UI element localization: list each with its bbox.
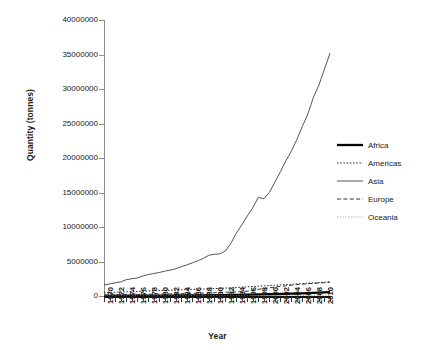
- x-axis-tick-labels: 1970197219741976197819801982198419861988…: [104, 302, 344, 334]
- x-tick-label: 2010: [327, 287, 335, 304]
- legend-label: Asia: [368, 177, 384, 186]
- x-tick-label: 2006: [305, 287, 313, 304]
- y-tick-label: 15000000: [18, 189, 98, 197]
- y-tick-label: 10000000: [18, 223, 98, 231]
- legend-item-africa[interactable]: Africa: [337, 136, 429, 154]
- y-tick-label: 35000000: [18, 51, 98, 59]
- legend-item-europe[interactable]: Europe: [337, 190, 429, 208]
- x-tick-label: 1970: [107, 287, 115, 304]
- x-tick-label: 1982: [173, 287, 181, 304]
- x-tick-label: 2000: [272, 287, 280, 304]
- legend-label: Africa: [368, 141, 388, 150]
- x-tick-label: 2002: [283, 287, 291, 304]
- legend-item-americas[interactable]: Americas: [337, 154, 429, 172]
- legend-label: Oceania: [368, 213, 398, 222]
- x-tick-label: 1988: [206, 287, 214, 304]
- x-tick-label: 1998: [261, 287, 269, 304]
- plot-area: [104, 20, 330, 296]
- legend-item-asia[interactable]: Asia: [337, 172, 429, 190]
- legend-item-oceania[interactable]: Oceania: [337, 208, 429, 226]
- x-tick-label: 1974: [129, 287, 137, 304]
- y-tick-label: 40000000: [18, 16, 98, 24]
- x-tick-label: 2004: [294, 287, 302, 304]
- x-axis-title: Year: [104, 331, 331, 341]
- x-tick-label: 1986: [195, 287, 203, 304]
- x-tick-label: 1978: [151, 287, 159, 304]
- y-axis-tick-labels: 0500000010000000150000002000000025000000…: [18, 0, 98, 350]
- chart-legend: AfricaAmericasAsiaEuropeOceania: [337, 136, 429, 226]
- x-tick-label: 1994: [239, 287, 247, 304]
- legend-label: Europe: [368, 195, 394, 204]
- x-tick-label: 1976: [140, 287, 148, 304]
- series-canvas: [104, 20, 330, 296]
- legend-line-swatch-europe: [337, 194, 363, 204]
- y-tick-label: 25000000: [18, 120, 98, 128]
- x-tick-label: 1980: [162, 287, 170, 304]
- y-tick-label: 20000000: [18, 154, 98, 162]
- x-tick-label: 1990: [217, 287, 225, 304]
- y-tick-label: 5000000: [18, 258, 98, 266]
- legend-line-swatch-oceania: [337, 212, 363, 222]
- y-tick-label: 0: [18, 292, 98, 300]
- x-tick-label: 1992: [228, 287, 236, 304]
- y-tick-label: 30000000: [18, 85, 98, 93]
- legend-label: Americas: [368, 159, 401, 168]
- x-tick-label: 2008: [316, 287, 324, 304]
- x-tick-label: 1984: [184, 287, 192, 304]
- series-line-asia: [104, 53, 330, 285]
- legend-line-swatch-africa: [337, 140, 363, 150]
- legend-line-swatch-asia: [337, 176, 363, 186]
- x-tick-label: 1972: [118, 287, 126, 304]
- line-chart: Quantity (tonnes) 0500000010000000150000…: [0, 0, 429, 350]
- legend-line-swatch-americas: [337, 158, 363, 168]
- x-tick-label: 1996: [250, 287, 258, 304]
